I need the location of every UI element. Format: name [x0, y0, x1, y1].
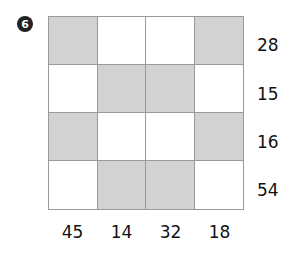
grid-cell-empty[interactable] [49, 65, 98, 113]
grid-cell-empty[interactable] [195, 65, 244, 113]
row-label: 15 [257, 84, 279, 104]
grid-cell-shaded[interactable] [195, 17, 244, 65]
puzzle-grid [48, 16, 244, 210]
grid-cell-shaded[interactable] [146, 161, 195, 209]
grid-cell-empty[interactable] [98, 17, 147, 65]
grid-cell-shaded[interactable] [146, 65, 195, 113]
grid-cell-empty[interactable] [49, 161, 98, 209]
puzzle-number-badge: 6 [17, 16, 33, 32]
row-label: 28 [257, 35, 279, 55]
column-label: 45 [48, 222, 97, 242]
grid-cell-empty[interactable] [98, 113, 147, 161]
row-label: 16 [257, 132, 279, 152]
grid-cell-shaded[interactable] [98, 65, 147, 113]
column-label: 18 [195, 222, 244, 242]
grid-cell-shaded[interactable] [195, 113, 244, 161]
row-label: 54 [257, 180, 279, 200]
column-label: 32 [146, 222, 195, 242]
column-label: 14 [97, 222, 146, 242]
grid-cell-shaded[interactable] [49, 113, 98, 161]
grid-cell-empty[interactable] [195, 161, 244, 209]
grid-cell-shaded[interactable] [49, 17, 98, 65]
grid-cell-empty[interactable] [146, 113, 195, 161]
grid-cell-shaded[interactable] [98, 161, 147, 209]
grid-cell-empty[interactable] [146, 17, 195, 65]
